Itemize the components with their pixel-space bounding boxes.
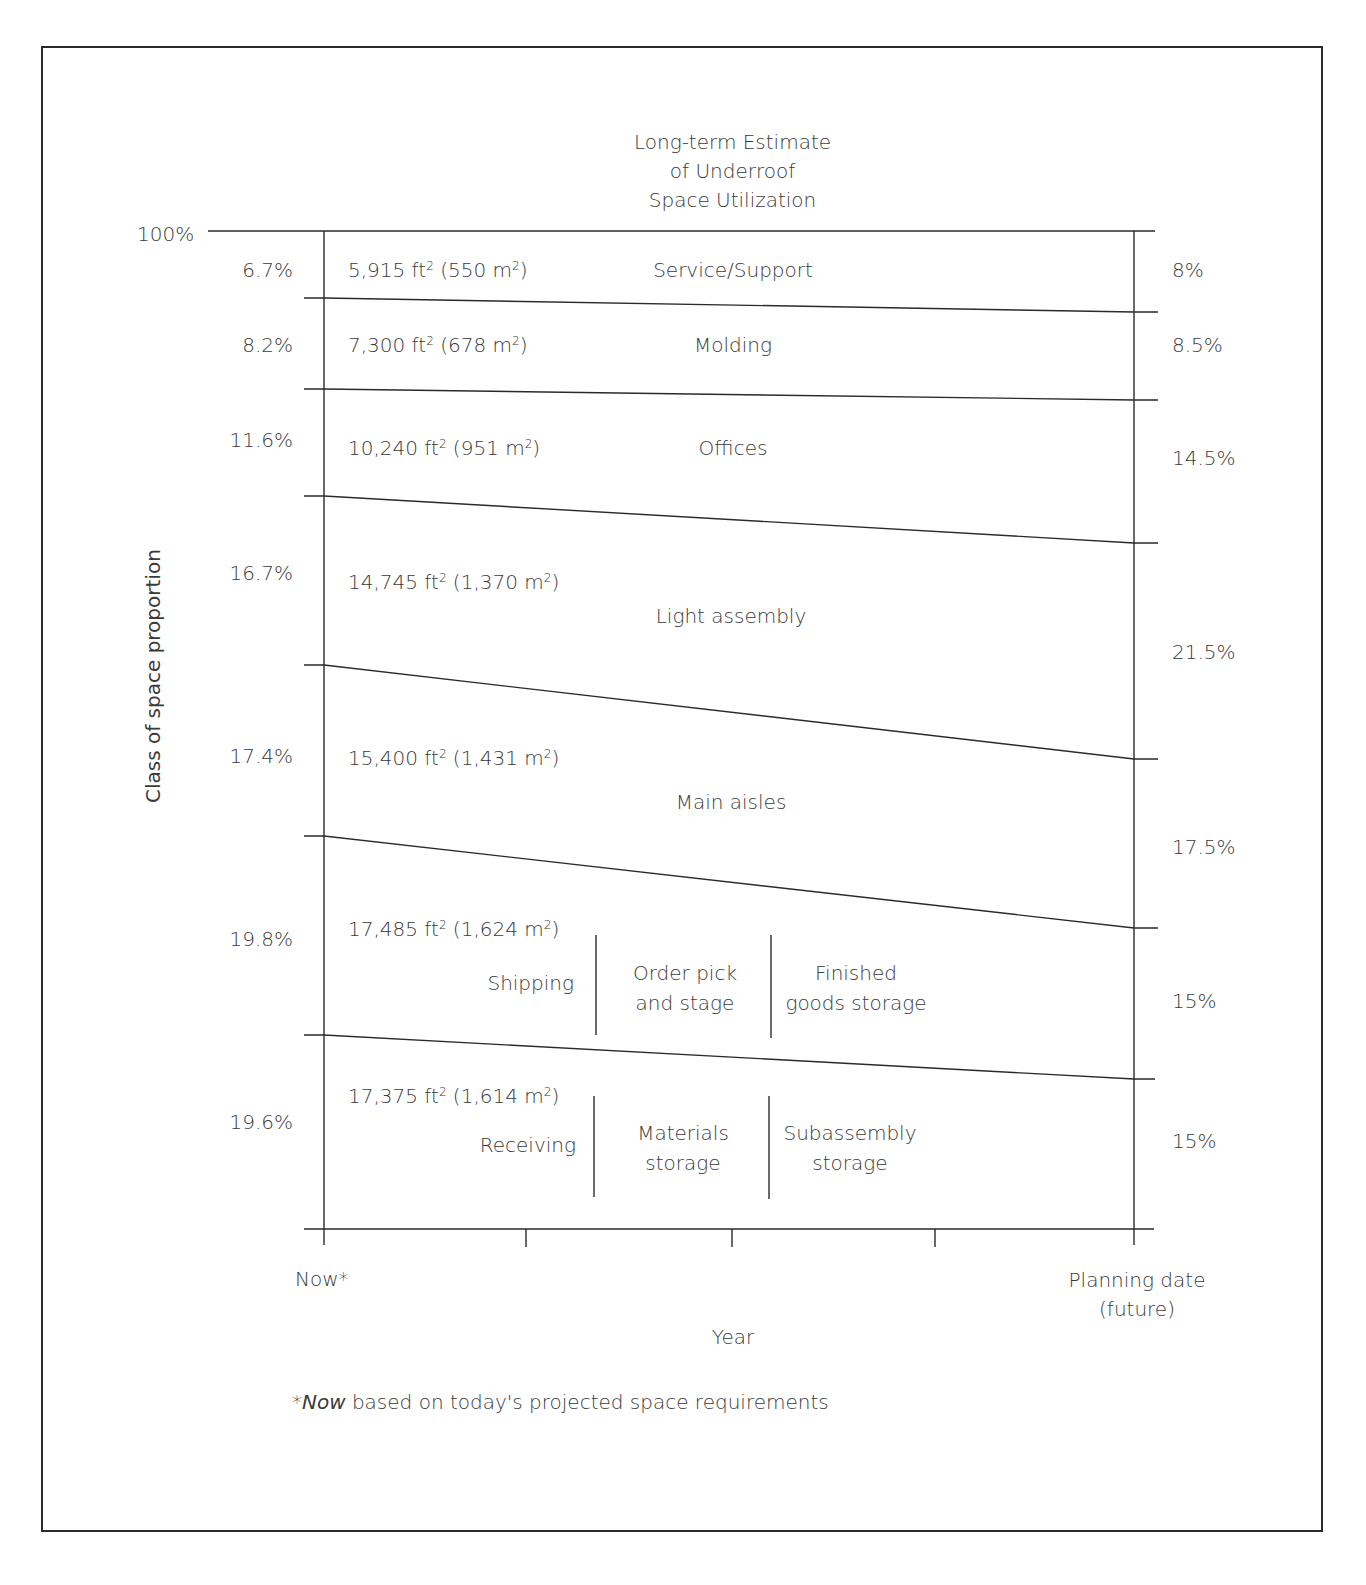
future-pct: 15% — [1172, 1129, 1216, 1153]
now-pct: 19.8% — [190, 927, 293, 951]
now-pct: 17.4% — [190, 744, 293, 768]
boundary-service-molding — [304, 298, 1158, 312]
now-pct: 11.6% — [190, 428, 293, 452]
future-pct: 8% — [1172, 258, 1204, 282]
band-name-offices: Offices — [613, 436, 853, 460]
future-pct: 17.5% — [1172, 835, 1236, 859]
x-end-label-line: (future) — [1057, 1295, 1217, 1324]
band-name-molding: Molding — [613, 333, 853, 357]
now-pct: 16.7% — [190, 561, 293, 585]
footnote: *Now based on today's projected space re… — [292, 1390, 829, 1414]
x-end-label-line: Planning date — [1057, 1266, 1217, 1295]
sub-receiving: Receiving — [440, 1133, 576, 1157]
x-end-label: Planning date (future) — [1057, 1266, 1217, 1324]
future-pct: 21.5% — [1172, 640, 1236, 664]
future-pct: 14.5% — [1172, 446, 1236, 470]
chart-title: Long-term Estimate of Underroof Space Ut… — [560, 128, 905, 215]
sub-subassembly-storage: Subassembly storage — [770, 1118, 930, 1178]
now-pct: 6.7% — [190, 258, 293, 282]
x-axis-label: Year — [673, 1325, 793, 1349]
boundary-aisles-shipping — [304, 836, 1158, 928]
boundary-molding-offices — [304, 389, 1158, 400]
boundary-offices-light — [304, 496, 1158, 543]
now-pct: 19.6% — [190, 1110, 293, 1134]
title-line: Long-term Estimate — [560, 128, 905, 157]
title-line: of Underroof — [560, 157, 905, 186]
boundary-light-aisles — [304, 665, 1158, 759]
title-line: Space Utilization — [560, 186, 905, 215]
band-area: 5,915 ft2 (550 m2) — [348, 258, 527, 282]
future-pct: 8.5% — [1172, 333, 1223, 357]
sub-shipping: Shipping — [440, 971, 574, 995]
band-area: 10,240 ft2 (951 m2) — [348, 436, 540, 460]
now-pct: 8.2% — [190, 333, 293, 357]
band-name-main-aisles: Main aisles — [611, 790, 851, 814]
sub-finished-goods: Finished goods storage — [772, 958, 940, 1018]
y-top-label: 100% — [137, 222, 194, 246]
y-axis-label: Class of space proportion — [141, 593, 165, 803]
sub-order-pick: Order pick and stage — [600, 958, 770, 1018]
band-name-light-assembly: Light assembly — [611, 604, 851, 628]
band-area: 17,485 ft2 (1,624 m2) — [348, 917, 559, 941]
band-area: 7,300 ft2 (678 m2) — [348, 333, 527, 357]
boundary-shipping-receiving — [304, 1035, 1155, 1079]
band-area: 17,375 ft2 (1,614 m2) — [348, 1084, 559, 1108]
future-pct: 15% — [1172, 989, 1216, 1013]
band-area: 15,400 ft2 (1,431 m2) — [348, 746, 559, 770]
band-name-service-support: Service/Support — [613, 258, 853, 282]
x-start-label: Now* — [295, 1267, 349, 1291]
sub-materials-storage: Materials storage — [598, 1118, 768, 1178]
band-area: 14,745 ft2 (1,370 m2) — [348, 570, 559, 594]
